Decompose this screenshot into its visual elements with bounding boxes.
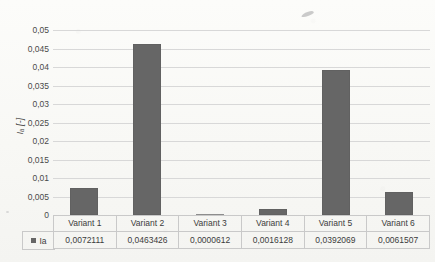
y-axis-tick-label: 0,03 <box>32 99 49 109</box>
legend-swatch-icon <box>31 238 36 243</box>
legend-series-label: Ia <box>39 236 46 246</box>
table-cell-category: Variant 6 <box>367 216 430 232</box>
table-cell-value: 0,0463426 <box>116 232 179 249</box>
bar-slot <box>241 30 304 215</box>
table-cell-category: Variant 1 <box>54 216 117 232</box>
table-cell-value: 0,0000612 <box>179 232 242 249</box>
scan-artifact-dot <box>6 211 9 213</box>
y-axis-tick-label: 0,04 <box>32 62 49 72</box>
bar-chart-figure: Iₐ [-] 0,050,0450,040,0350,030,0250,020,… <box>0 0 435 262</box>
y-axis-tick-label: 0,025 <box>28 118 49 128</box>
bar-2[interactable] <box>133 44 161 215</box>
legend: Ia <box>22 231 55 250</box>
scan-artifact-smudge <box>301 10 315 18</box>
y-axis-title: Iₐ [-] <box>11 96 29 156</box>
y-axis-tick-label: 0,05 <box>32 25 49 35</box>
plot-area: 0,050,0450,040,0350,030,0250,020,0150,01… <box>53 30 430 215</box>
table-cell-category: Variant 3 <box>179 216 242 232</box>
table-cell-category: Variant 4 <box>241 216 304 232</box>
y-axis-tick-label: 0,02 <box>32 136 49 146</box>
y-axis-tick-label: 0,045 <box>28 44 49 54</box>
bar-slot <box>116 30 179 215</box>
bar-slot <box>53 30 116 215</box>
y-axis-title-label: Iₐ [-] <box>15 118 25 135</box>
table-cell-category: Variant 2 <box>116 216 179 232</box>
table-cell-value: 0,0072111 <box>54 232 117 249</box>
table-cell-category: Variant 5 <box>304 216 367 232</box>
bars-layer <box>53 30 430 215</box>
y-axis-tick-label: 0,015 <box>28 155 49 165</box>
y-axis-tick-label: 0,01 <box>32 173 49 183</box>
table-row-categories: Variant 1Variant 2Variant 3Variant 4Vari… <box>54 216 430 232</box>
chart-data-table: Variant 1Variant 2Variant 3Variant 4Vari… <box>53 215 430 249</box>
table-cell-value: 0,0392069 <box>304 232 367 249</box>
bar-slot <box>304 30 367 215</box>
table-row-values: 0,00721110,04634260,00006120,00161280,03… <box>54 232 430 249</box>
y-axis-tick-label: 0 <box>44 210 49 220</box>
bar-slot <box>367 30 430 215</box>
table-cell-value: 0,0016128 <box>241 232 304 249</box>
y-axis-tick-label: 0,035 <box>28 81 49 91</box>
bar-1[interactable] <box>70 188 98 215</box>
bar-slot <box>179 30 242 215</box>
bar-5[interactable] <box>322 70 350 215</box>
y-axis-tick-label: 0,005 <box>28 192 49 202</box>
table-cell-value: 0,0061507 <box>367 232 430 249</box>
bar-6[interactable] <box>385 192 413 215</box>
